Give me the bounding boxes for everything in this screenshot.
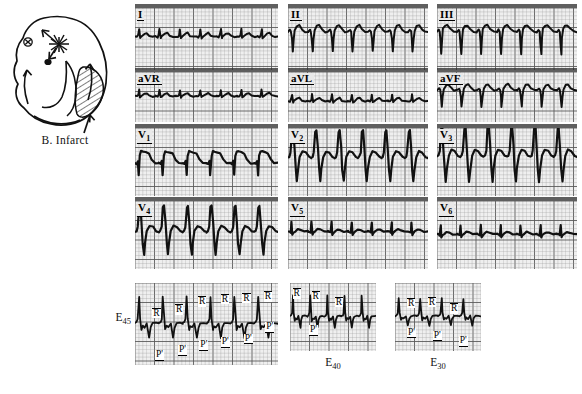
lead-subscript: 2 [299, 134, 303, 143]
lead-subscript: 5 [299, 207, 303, 216]
print-smear [288, 197, 428, 201]
annotation-p-wave: P' [309, 325, 318, 336]
annotation-p-wave: P' [155, 350, 164, 361]
ecg-panel-lead-E45: RRRRRRP'P'P'P'P'P' [135, 283, 278, 365]
ecg-figure: B. Infarct IIIIIIaVRaVLaVFV1V2V3V4V5V6RR… [0, 0, 582, 394]
diagram-caption: B. Infarct [2, 134, 128, 146]
lead-label-E30: E30 [395, 356, 481, 371]
lead-name: V [440, 201, 448, 213]
annotation-p-wave: P' [433, 331, 442, 342]
annotation-p-wave: P' [199, 340, 208, 351]
lead-label-aVL: aVL [290, 73, 314, 85]
lead-subscript: 4 [146, 207, 150, 216]
lead-name: III [440, 8, 453, 20]
annotation-p-wave: P' [244, 334, 253, 345]
lead-subscript: 1 [146, 134, 150, 143]
lead-name: aVF [440, 72, 461, 84]
lead-subscript: 45 [123, 316, 132, 326]
lead-subscript: 30 [437, 361, 446, 371]
lead-name: I [138, 8, 142, 20]
annotation-r-wave: R [221, 294, 229, 305]
print-smear [437, 68, 577, 72]
lead-label-II: II [290, 9, 302, 21]
av-node-marker [44, 59, 51, 65]
lead-label-V5: V5 [290, 202, 305, 217]
ecg-panel-lead-III: III [437, 8, 577, 70]
annotation-r-wave: R [198, 296, 206, 307]
ecg-panel-lead-V3: V3 [437, 128, 577, 196]
annotation-r-wave: R [152, 308, 160, 319]
lead-label-I: I [137, 9, 144, 21]
lead-name: V [291, 201, 299, 213]
heart-diagram [4, 4, 130, 134]
lead-name: II [291, 8, 300, 20]
print-smear [135, 197, 278, 201]
lead-name: V [440, 128, 448, 140]
lead-name: E [115, 311, 122, 323]
septum-outline [42, 61, 76, 116]
lead-label-V3: V3 [439, 129, 454, 144]
annotation-r-wave: R [450, 303, 458, 314]
annotation-p-wave: P' [459, 336, 468, 347]
annotation-p-wave: P' [221, 337, 230, 348]
lead-label-aVR: aVR [137, 73, 162, 85]
ecg-panel-lead-V5: V5 [288, 201, 428, 269]
print-smear [437, 124, 577, 128]
ecg-panel-lead-aVF: aVF [437, 72, 577, 122]
lead-label-V6: V6 [439, 202, 454, 217]
annotation-p-wave: P' [178, 345, 187, 356]
ecg-panel-lead-aVL: aVL [288, 72, 428, 122]
lead-name: aVR [138, 72, 160, 84]
print-smear [135, 124, 278, 128]
print-smear [288, 4, 428, 8]
lead-label-E40: E40 [290, 356, 376, 371]
ecg-panel-lead-V1: V1 [135, 128, 278, 196]
lead-subscript: 6 [448, 207, 452, 216]
lead-label-V1: V1 [137, 129, 152, 144]
annotation-p-wave: P' [407, 328, 416, 339]
lead-label-aVF: aVF [439, 73, 463, 85]
annotation-r-wave: R [264, 291, 272, 302]
ecg-panel-lead-aVR: aVR [135, 72, 278, 122]
annotation-r-wave: R [407, 298, 415, 309]
lead-subscript: 40 [332, 361, 341, 371]
lead-name: V [138, 128, 146, 140]
print-smear [288, 124, 428, 128]
annotation-r-wave: R [293, 288, 301, 299]
annotation-r-wave: R [335, 297, 343, 308]
annotation-r-wave: R [242, 293, 250, 304]
ecg-panel-lead-V4: V4 [135, 201, 278, 269]
lead-subscript: 3 [448, 134, 452, 143]
ecg-panel-lead-II: II [288, 8, 428, 70]
lead-label-V4: V4 [137, 202, 152, 217]
infarct-hatching [75, 67, 103, 117]
lead-name: V [138, 201, 146, 213]
print-smear [437, 197, 577, 201]
lead-label-V2: V2 [290, 129, 305, 144]
print-smear [135, 4, 278, 8]
annotation-r-wave: R [312, 291, 320, 302]
lead-name: aVL [291, 72, 312, 84]
ecg-panel-lead-E30: RRRP'P'P' [395, 283, 481, 351]
ecg-panel-lead-V6: V6 [437, 201, 577, 269]
ecg-panel-lead-E40: RRRP' [290, 283, 376, 351]
print-smear [437, 4, 577, 8]
annotation-r-wave: R [428, 297, 436, 308]
lead-label-E45: E45 [97, 311, 131, 326]
print-smear [288, 68, 428, 72]
ecg-panel-lead-I: I [135, 8, 278, 70]
print-smear [135, 68, 278, 72]
sa-node-marker [24, 38, 32, 46]
ecg-panel-lead-V2: V2 [288, 128, 428, 196]
lead-label-III: III [439, 9, 455, 21]
lead-name: V [291, 128, 299, 140]
annotation-r-wave: R [175, 304, 183, 315]
annotation-p-wave: P' [265, 322, 274, 333]
